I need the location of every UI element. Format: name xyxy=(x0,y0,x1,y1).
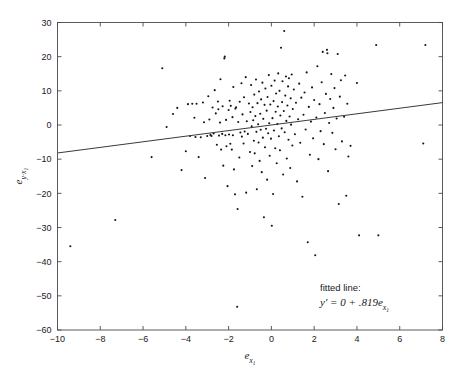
y-tick-label: −20 xyxy=(36,189,51,199)
data-point xyxy=(206,135,208,137)
data-point xyxy=(277,106,279,108)
data-point xyxy=(317,158,319,160)
data-point xyxy=(347,155,349,157)
data-point xyxy=(233,168,235,170)
data-point xyxy=(275,93,277,95)
data-point xyxy=(318,103,320,105)
data-point xyxy=(229,143,231,145)
y-tick-label: 30 xyxy=(41,18,51,28)
data-point xyxy=(252,106,254,108)
data-point xyxy=(263,216,265,218)
data-point xyxy=(226,185,228,187)
data-point xyxy=(236,306,238,308)
data-point xyxy=(281,127,283,129)
data-point xyxy=(260,98,262,100)
data-point xyxy=(259,160,261,162)
data-point xyxy=(284,131,286,133)
data-point xyxy=(249,111,251,113)
data-point xyxy=(305,128,307,130)
data-point xyxy=(225,145,227,147)
data-point xyxy=(215,112,217,114)
data-point xyxy=(258,90,260,92)
data-point xyxy=(274,147,276,149)
annotation-equation-prefix: y′ = 0 + .819 xyxy=(319,296,378,308)
data-point xyxy=(161,67,163,69)
data-point xyxy=(114,219,116,221)
data-point xyxy=(358,234,360,236)
data-point xyxy=(255,79,257,81)
data-point xyxy=(221,133,223,135)
data-point xyxy=(232,86,234,88)
data-point xyxy=(262,137,264,139)
annotation-equation-subsubscript: 1 xyxy=(386,307,389,313)
x-tick-label: 2 xyxy=(312,334,317,344)
x-tick-label: −8 xyxy=(95,334,105,344)
data-point xyxy=(291,144,293,146)
data-point xyxy=(271,117,273,119)
data-point xyxy=(330,73,332,75)
data-point xyxy=(275,111,277,113)
data-point xyxy=(187,103,189,105)
data-point xyxy=(264,87,266,89)
data-point xyxy=(328,122,330,124)
data-point xyxy=(212,107,214,109)
data-point xyxy=(276,162,278,164)
data-point xyxy=(277,72,279,74)
data-point xyxy=(326,49,328,51)
data-point xyxy=(219,78,221,80)
data-point xyxy=(293,88,295,90)
data-point xyxy=(324,112,326,114)
data-point xyxy=(239,101,241,103)
data-point xyxy=(203,121,205,123)
x-tick-label: −6 xyxy=(138,334,148,344)
data-point xyxy=(422,142,424,144)
data-point xyxy=(289,115,291,117)
data-point xyxy=(253,94,255,96)
data-point xyxy=(238,156,240,158)
data-point xyxy=(216,144,218,146)
data-point xyxy=(224,56,226,58)
data-point xyxy=(307,241,309,243)
data-point xyxy=(303,91,305,93)
data-point xyxy=(349,145,351,147)
y-tick-label: −30 xyxy=(36,223,51,233)
data-point xyxy=(283,110,285,112)
data-point xyxy=(266,179,268,181)
data-point xyxy=(284,95,286,97)
data-point xyxy=(260,129,262,131)
data-point xyxy=(225,119,227,121)
data-point xyxy=(195,103,197,105)
data-point xyxy=(314,254,316,256)
data-point xyxy=(312,137,314,139)
data-point xyxy=(290,97,292,99)
data-point xyxy=(285,75,287,77)
data-point xyxy=(313,99,315,101)
data-point xyxy=(282,173,284,175)
y-axis-title-subscript: y·x xyxy=(19,170,28,181)
data-point xyxy=(291,73,293,75)
data-point xyxy=(287,139,289,141)
data-point xyxy=(287,85,289,87)
data-point xyxy=(345,195,347,197)
data-point xyxy=(281,101,283,103)
data-point xyxy=(301,196,303,198)
data-point xyxy=(217,108,219,110)
data-point xyxy=(270,138,272,140)
y-tick-label: 20 xyxy=(41,52,51,62)
data-point xyxy=(253,140,255,142)
x-tick-label: −4 xyxy=(181,334,191,344)
y-tick-label: −50 xyxy=(36,291,51,301)
data-point xyxy=(311,86,313,88)
data-point xyxy=(261,82,263,84)
data-point xyxy=(292,108,294,110)
data-point xyxy=(239,131,241,133)
data-point xyxy=(185,150,187,152)
data-point xyxy=(261,171,263,173)
data-point xyxy=(271,225,273,227)
data-point xyxy=(279,114,281,116)
data-point xyxy=(218,135,220,137)
data-point xyxy=(299,142,301,144)
data-point xyxy=(254,115,256,117)
data-point xyxy=(309,154,311,156)
data-point xyxy=(245,192,247,194)
